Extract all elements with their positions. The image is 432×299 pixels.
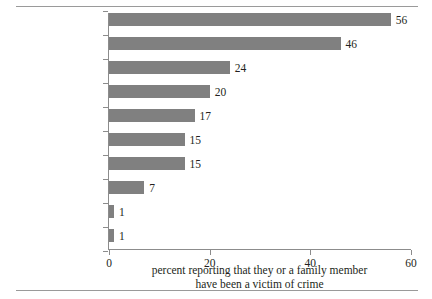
x-axis-tick [310,250,311,255]
bar-value-police-extortion: 15 [190,158,202,171]
bar-assault [109,61,230,74]
bar-chart-plot-area: Robbery56Mugging46Assault24Murder20Attem… [0,10,432,250]
bar-mugging [109,37,341,50]
bar-extortion [109,181,144,194]
bottom-divider-rule [16,290,418,291]
bar-value-sexual-abuse: 1 [119,230,125,243]
bar-value-attempted-assault: 17 [200,110,212,123]
bar-value-rape: 1 [119,206,125,219]
y-axis-tick [103,179,108,180]
bar-value-murder: 20 [215,86,227,99]
y-axis-tick [103,155,108,156]
bar-murder [109,85,210,98]
x-axis-tick [210,250,211,255]
bar-breaking-and-entering [109,133,185,146]
y-axis-tick [103,35,108,36]
figure: Robbery56Mugging46Assault24Murder20Attem… [0,0,432,299]
bar-police-extortion [109,157,185,170]
bar-attempted-assault [109,109,195,122]
x-axis-tick [109,250,110,255]
y-axis-tick [103,131,108,132]
bar-value-extortion: 7 [149,182,155,195]
bar-value-robbery: 56 [396,14,408,27]
y-axis-tick [103,107,108,108]
bar-sexual-abuse [109,229,114,242]
y-axis-tick [103,11,108,12]
caption-line-2: have been a victim of crime [108,277,411,291]
y-axis-tick [103,59,108,60]
bar-value-mugging: 46 [346,38,358,51]
bar-value-assault: 24 [235,62,247,75]
bar-value-breaking-and-entering: 15 [190,134,202,147]
bar-robbery [109,13,391,26]
bar-rape [109,205,114,218]
y-axis-tick [103,203,108,204]
x-axis-tick [411,250,412,255]
x-axis-line [108,249,411,250]
top-divider-rule [16,6,418,7]
y-axis-tick [103,83,108,84]
y-axis-tick [103,251,108,252]
caption-line-1: percent reporting that they or a family … [108,263,411,277]
y-axis-tick [103,227,108,228]
x-axis-caption: percent reporting that they or a family … [108,263,411,291]
